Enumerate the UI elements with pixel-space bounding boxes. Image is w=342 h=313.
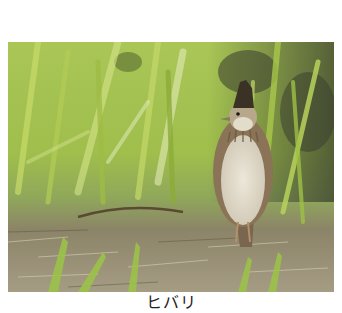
photo-caption: ヒバリ: [0, 293, 342, 313]
skylark-photo: [8, 42, 334, 292]
photo-illustration: [8, 42, 334, 292]
